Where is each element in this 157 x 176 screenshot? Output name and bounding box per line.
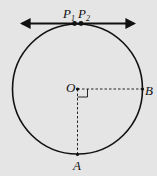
label-P2: P xyxy=(77,6,86,21)
label-P1-subscript: 1 xyxy=(71,14,75,23)
label-O: O xyxy=(66,80,76,95)
point-B xyxy=(141,87,144,90)
label-P1: P xyxy=(62,6,71,21)
right-angle-marker xyxy=(78,89,88,97)
label-P2-subscript: 2 xyxy=(86,14,90,23)
label-B: B xyxy=(145,83,153,98)
circle-tangent-diagram: P 1 P 2 O B A xyxy=(0,0,157,176)
point-O xyxy=(76,87,79,90)
point-A xyxy=(76,153,79,156)
label-A: A xyxy=(72,158,81,173)
point-P2 xyxy=(79,21,84,26)
